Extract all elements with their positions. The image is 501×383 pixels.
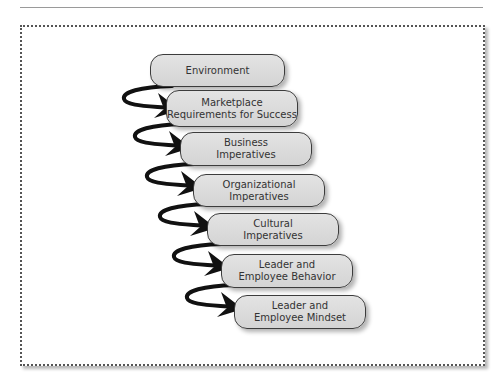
step-label: Business <box>224 137 268 149</box>
step-label: Leader and <box>272 300 328 312</box>
step-label: Organizational <box>223 179 296 191</box>
step-label: Requirements for Success <box>167 109 297 121</box>
step-environment: Environment <box>150 54 285 87</box>
step-label: Environment <box>186 65 250 77</box>
step-label: Cultural <box>253 218 292 230</box>
step-label: Marketplace <box>201 97 262 109</box>
step-label: Leader and <box>259 259 315 271</box>
step-label: Imperatives <box>229 191 288 203</box>
step-label: Imperatives <box>216 149 275 161</box>
step-label: Employee Mindset <box>254 312 346 324</box>
step-business-imperatives: Business Imperatives <box>180 132 312 166</box>
step-leader-employee-mindset: Leader and Employee Mindset <box>234 295 366 329</box>
step-leader-employee-behavior: Leader and Employee Behavior <box>221 254 353 288</box>
step-cultural-imperatives: Cultural Imperatives <box>207 213 339 246</box>
step-marketplace-requirements: Marketplace Requirements for Success <box>166 90 298 127</box>
step-label: Employee Behavior <box>238 271 335 283</box>
step-organizational-imperatives: Organizational Imperatives <box>193 174 325 207</box>
step-label: Imperatives <box>243 230 302 242</box>
